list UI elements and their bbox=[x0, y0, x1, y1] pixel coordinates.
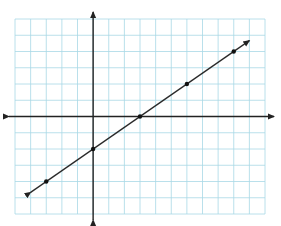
data-point bbox=[232, 49, 236, 53]
data-point bbox=[44, 179, 48, 183]
data-point bbox=[138, 114, 142, 118]
coordinate-plane bbox=[0, 0, 281, 226]
data-point bbox=[91, 147, 95, 151]
data-point bbox=[185, 82, 189, 86]
